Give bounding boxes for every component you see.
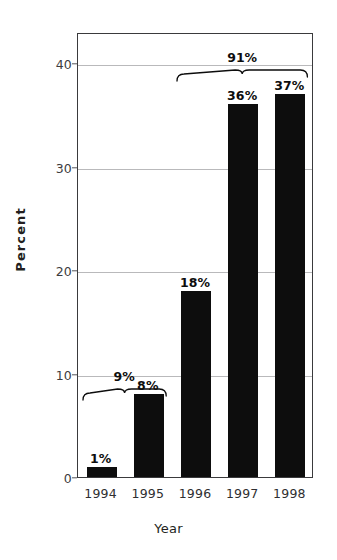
x-axis-tick-label-1994: 1994 — [84, 486, 117, 501]
gridline — [78, 65, 312, 66]
bracket-1994-1995 — [81, 386, 168, 404]
bracket-1996-1998 — [175, 67, 309, 85]
bracket-1996-1998-label: 91% — [227, 50, 257, 65]
y-axis-tick-mark — [72, 374, 77, 375]
x-axis-tick-label-1996: 1996 — [179, 486, 212, 501]
bar-1994[interactable] — [87, 467, 117, 477]
bar-value-label-1997: 36% — [227, 88, 257, 103]
bracket-1994-1995-label: 9% — [114, 369, 135, 384]
y-axis: 010203040 — [22, 0, 72, 560]
x-axis-tick-label-1998: 1998 — [273, 486, 306, 501]
y-axis-tick-label: 30 — [32, 160, 72, 175]
y-axis-tick-mark — [72, 167, 77, 168]
y-axis-title: Percent — [13, 185, 28, 295]
bar-value-label-1996: 18% — [180, 275, 210, 290]
bar-1995[interactable] — [134, 394, 164, 477]
bar-1998[interactable] — [275, 94, 305, 477]
y-axis-tick-label: 0 — [32, 471, 72, 486]
y-axis-tick-mark — [72, 63, 77, 64]
y-axis-tick-mark — [72, 477, 77, 478]
bar-1996[interactable] — [181, 291, 211, 477]
brace-path — [177, 70, 307, 81]
brace-path — [83, 389, 166, 400]
x-axis-tick-label-1997: 1997 — [226, 486, 259, 501]
bar-value-label-1994: 1% — [90, 451, 111, 466]
y-axis-tick-label: 10 — [32, 367, 72, 382]
x-axis-tick-label-1995: 1995 — [131, 486, 164, 501]
y-axis-tick-mark — [72, 270, 77, 271]
bar-chart: 010203040 Percent 19941995199619971998 Y… — [0, 0, 337, 560]
plot-area — [77, 33, 313, 478]
bar-1997[interactable] — [228, 104, 258, 477]
y-axis-tick-label: 40 — [32, 57, 72, 72]
y-axis-tick-label: 20 — [32, 264, 72, 279]
x-axis-title: Year — [0, 521, 337, 536]
